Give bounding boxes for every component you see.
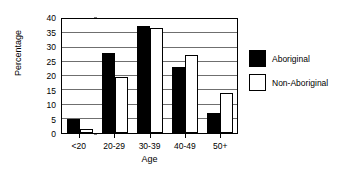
x-axis-tick-marks [61, 134, 238, 139]
legend-swatch [249, 50, 266, 67]
bar [150, 28, 163, 133]
legend-item: Non-Aboriginal [249, 72, 349, 93]
y-axis-tick-label: 15 [36, 86, 56, 95]
x-axis-tick-label: 50+ [203, 141, 238, 153]
x-axis-tick-cell [203, 134, 238, 139]
bar [220, 93, 233, 133]
y-axis-tick-label: 25 [36, 57, 56, 66]
x-axis-tick-label: 40-49 [167, 141, 202, 153]
bar-group [97, 19, 132, 133]
bar-chart-figure: Percentage 0510152025303540 <2020-2930-3… [0, 0, 352, 175]
plot-area [61, 18, 238, 134]
bar-group [202, 19, 237, 133]
x-axis-tick-mark [79, 134, 80, 138]
x-axis-tick-mark [150, 134, 151, 138]
bar [80, 129, 93, 133]
bar [207, 113, 220, 133]
legend-label: Non-Aboriginal [272, 78, 328, 88]
x-axis-tick-labels: <2020-2930-3940-4950+ [61, 141, 238, 153]
x-axis-tick-cell [132, 134, 167, 139]
bar [115, 77, 128, 133]
bar-group [132, 19, 167, 133]
x-axis-tick-label: 30-39 [132, 141, 167, 153]
x-axis-tick-mark [220, 134, 221, 138]
x-axis-tick-cell [96, 134, 131, 139]
x-axis-tick-label: <20 [61, 141, 96, 153]
y-axis-tick-label: 10 [36, 101, 56, 110]
bar-group [167, 19, 202, 133]
x-axis-title: Age [61, 154, 238, 164]
y-axis-tick-label: 30 [36, 43, 56, 52]
y-axis-tick-label: 5 [36, 115, 56, 124]
chart-legend: AboriginalNon-Aboriginal [249, 48, 349, 96]
x-axis-tick-cell [167, 134, 202, 139]
x-axis-tick-label: 20-29 [96, 141, 131, 153]
bar [185, 55, 198, 133]
legend-swatch [249, 74, 266, 91]
legend-label: Aboriginal [272, 54, 310, 64]
y-axis-tick-labels: 0510152025303540 [36, 14, 56, 134]
y-axis-tick-label: 20 [36, 72, 56, 81]
bar [67, 119, 80, 133]
bar-group [62, 19, 97, 133]
bar [137, 26, 150, 133]
legend-item: Aboriginal [249, 48, 349, 69]
y-axis-tick-label: 0 [36, 130, 56, 139]
bar-groups [62, 19, 237, 133]
x-axis-tick-cell [61, 134, 96, 139]
x-axis-tick-mark [114, 134, 115, 138]
bar [102, 53, 115, 133]
y-axis-tick-label: 40 [36, 14, 56, 23]
bar [172, 67, 185, 133]
y-axis-tick-label: 35 [36, 28, 56, 37]
y-axis-title: Percentage [13, 13, 23, 93]
x-axis-tick-mark [185, 134, 186, 138]
